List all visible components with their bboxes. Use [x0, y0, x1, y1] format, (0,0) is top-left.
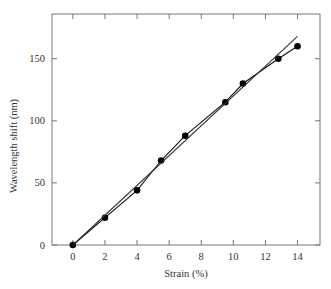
- x-tick-label: 8: [199, 251, 204, 262]
- data-series: [70, 36, 301, 248]
- y-tick-label: 0: [40, 240, 45, 251]
- y-tick-label: 150: [29, 53, 45, 64]
- x-tick-label: 4: [134, 251, 140, 262]
- data-point-marker: [294, 43, 301, 50]
- x-tick-label: 10: [228, 251, 239, 262]
- strain-wavelength-chart: 02468101214 050100150 Strain (%) Wavelen…: [0, 0, 331, 289]
- data-point-marker: [222, 99, 229, 106]
- x-tick-label: 6: [167, 251, 172, 262]
- x-tick-label: 12: [260, 251, 271, 262]
- y-axis-ticks: 050100150: [29, 53, 320, 250]
- x-tick-label: 14: [292, 251, 303, 262]
- y-axis-label: Wavelength shift (nm): [8, 98, 20, 193]
- linear-fit-line: [73, 36, 298, 245]
- plot-frame: [52, 14, 320, 245]
- data-point-marker: [240, 80, 247, 87]
- y-tick-label: 100: [29, 115, 45, 126]
- x-tick-label: 2: [102, 251, 107, 262]
- x-tick-label: 0: [70, 251, 75, 262]
- x-axis-label: Strain (%): [164, 268, 208, 280]
- y-tick-label: 50: [35, 177, 46, 188]
